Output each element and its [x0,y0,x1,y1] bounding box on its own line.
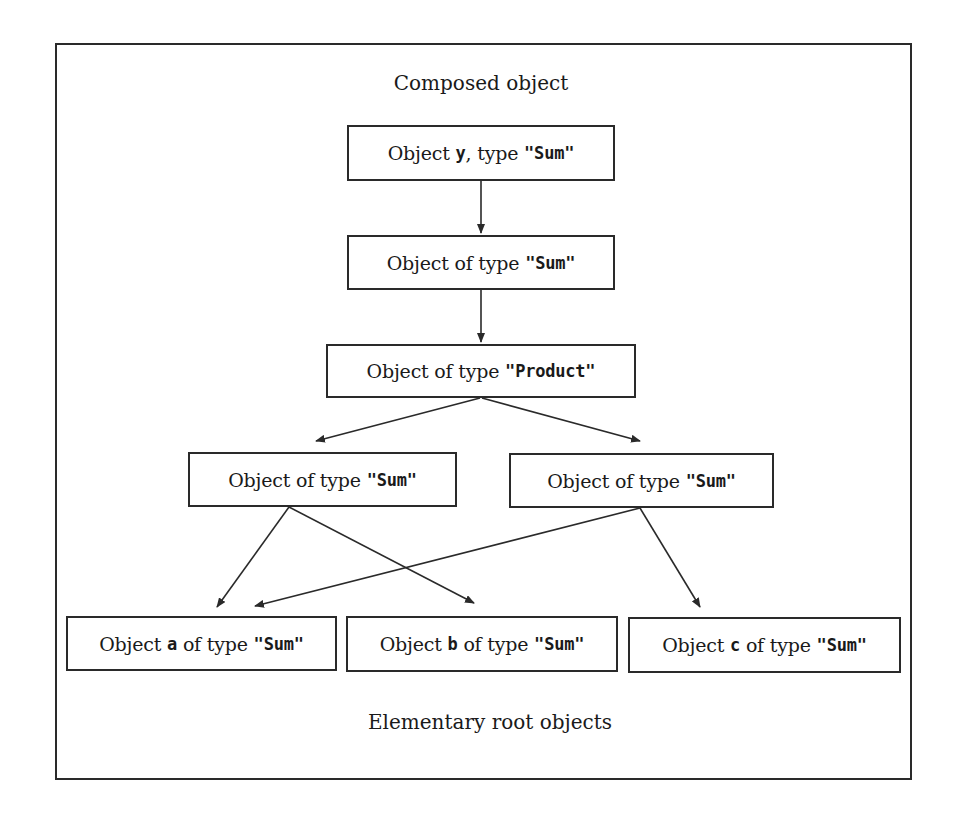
node-product: Object of type "Product" [326,344,636,398]
node-type: "Sum" [525,253,575,273]
node-var: b [447,634,457,654]
node-mid: of type [463,633,528,655]
node-type: "Sum" [254,634,304,654]
node-type: "Sum" [524,143,574,163]
node-prefix: Object of type [547,470,680,492]
node-sum-left: Object of type "Sum" [188,452,457,507]
node-var: a [167,634,177,654]
node-type: "Sum" [817,635,867,655]
node-prefix: Object [380,633,442,655]
node-object-c: Object c of type "Sum" [628,617,901,673]
node-type: "Sum" [686,471,736,491]
composed-object-label: Composed object [381,71,581,95]
node-object-y: Object y, type "Sum" [347,125,615,181]
node-type: "Product" [505,361,595,381]
node-prefix: Object [662,634,724,656]
node-sum: Object of type "Sum" [347,235,615,290]
node-type: "Sum" [367,470,417,490]
node-prefix: Object [388,142,450,164]
node-var: c [730,635,740,655]
node-prefix: Object of type [367,360,500,382]
node-mid: of type [746,634,811,656]
node-var: y [456,143,466,163]
elementary-root-objects-label: Elementary root objects [355,710,625,734]
node-object-a: Object a of type "Sum" [66,616,337,671]
node-prefix: Object [99,633,161,655]
node-sum-right: Object of type "Sum" [509,453,774,508]
node-object-b: Object b of type "Sum" [346,616,618,672]
node-prefix: Object of type [387,252,520,274]
node-mid: , type [466,142,519,164]
node-prefix: Object of type [228,469,361,491]
node-mid: of type [183,633,248,655]
node-type: "Sum" [534,634,584,654]
